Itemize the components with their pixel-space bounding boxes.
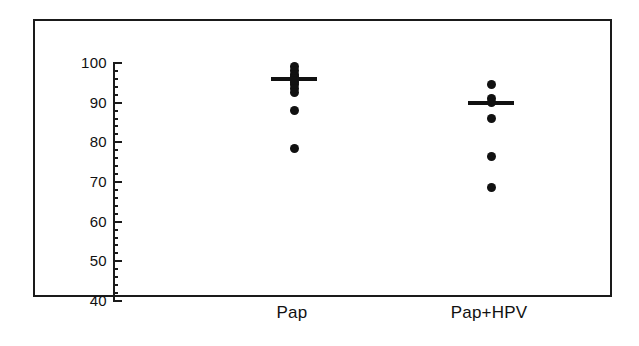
dot-plot-figure: 100908070605040 Pap Pap+HPV [0,0,639,346]
y-axis-tick-label-slot: 50 [35,253,107,269]
y-axis-minor-tick [113,276,118,278]
y-axis-minor-tick [113,110,118,112]
y-axis-major-tick [113,102,122,104]
y-axis-minor-tick [113,165,118,167]
plot-area: 100908070605040 [35,21,610,295]
y-axis-tick-label-slot: 60 [35,214,107,230]
y-axis-minor-tick [113,213,118,215]
mean-marker [468,101,514,105]
y-axis-minor-tick [113,229,118,231]
y-axis-minor-tick [113,284,118,286]
data-point [290,106,299,115]
y-axis-tick-label: 70 [90,174,107,189]
category-label-pap-hpv: Pap+HPV [451,303,528,323]
y-axis-tick-label-slot: 40 [35,293,107,309]
y-axis-minor-tick [113,125,118,127]
y-axis-tick-label-slot: 80 [35,134,107,150]
y-axis-minor-tick [113,237,118,239]
y-axis-minor-tick [113,78,118,80]
y-axis-major-tick [113,260,122,262]
y-axis-tick-label: 40 [90,293,107,308]
y-axis-minor-tick [113,149,118,151]
y-axis-tick-label: 90 [90,95,107,110]
y-axis-minor-tick [113,86,118,88]
data-point [487,114,496,123]
y-axis-minor-tick [113,244,118,246]
y-axis-tick-label: 60 [90,214,107,229]
data-point [487,152,496,161]
data-point [290,88,299,97]
y-axis-major-tick [113,181,122,183]
y-axis-tick-label-slot: 90 [35,95,107,111]
y-axis-minor-tick [113,70,118,72]
y-axis-minor-tick [113,118,118,120]
y-axis-minor-tick [113,94,118,96]
data-point [290,144,299,153]
data-point [487,80,496,89]
y-axis-minor-tick [113,268,118,270]
y-axis-minor-tick [113,189,118,191]
mean-marker [271,77,317,81]
y-axis-minor-tick [113,205,118,207]
y-axis-tick-label: 100 [81,55,107,70]
y-axis-minor-tick [113,252,118,254]
y-axis-tick-label: 50 [90,253,107,268]
data-point [487,183,496,192]
y-axis-minor-tick [113,157,118,159]
y-axis-major-tick [113,300,122,302]
y-axis-minor-tick [113,173,118,175]
category-label-pap: Pap [277,303,308,323]
y-axis-tick-label-slot: 100 [35,55,107,71]
y-axis-minor-tick [113,133,118,135]
y-axis-tick-label: 80 [90,134,107,149]
plot-frame: 100908070605040 [33,19,612,297]
y-axis-tick-label-slot: 70 [35,174,107,190]
y-axis-minor-tick [113,197,118,199]
y-axis-major-tick [113,62,122,64]
y-axis-major-tick [113,141,122,143]
y-axis-minor-tick [113,292,118,294]
y-axis-major-tick [113,221,122,223]
